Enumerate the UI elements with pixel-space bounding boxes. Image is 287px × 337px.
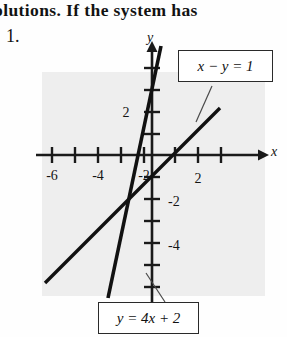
x-tick-label: -6 bbox=[46, 168, 58, 183]
y-tick-label: -2 bbox=[168, 194, 180, 209]
x-axis-label: x bbox=[271, 144, 277, 160]
x-tick-label: -4 bbox=[92, 168, 104, 183]
graph-background-panel bbox=[42, 72, 265, 296]
y-tick-label: -4 bbox=[168, 238, 180, 253]
page-canvas: olutions. If the system has 1. bbox=[0, 0, 287, 337]
y-axis-label: y bbox=[147, 30, 153, 46]
prose-text: olutions. If the system has bbox=[0, 0, 287, 21]
x-tick-label: 2 bbox=[195, 171, 202, 186]
y-tick-label: 2 bbox=[123, 105, 130, 120]
equation-label-line2: y = 4x + 2 bbox=[98, 302, 199, 334]
equation-label-line1: x − y = 1 bbox=[178, 50, 273, 82]
